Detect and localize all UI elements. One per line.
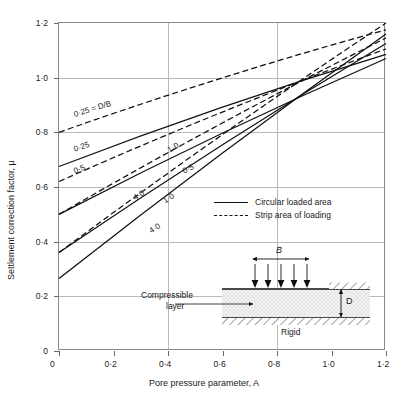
curve-circular-025 (59, 54, 386, 166)
y-axis-tick-label: 0 (43, 346, 48, 356)
figure-number-mark (2, 356, 8, 368)
legend-swatch-dashed-line (214, 211, 248, 219)
x-axis-tick (386, 351, 387, 356)
figure-settlement-correction-factor: Settlement correction factor, μ Pore pre… (0, 0, 408, 404)
x-axis-tick (59, 351, 60, 356)
curve-strip-025DB (59, 30, 386, 133)
legend: Circular loaded area Strip area of loadi… (214, 195, 332, 221)
x-axis-tick (114, 351, 115, 356)
x-axis-tick-label: 1·2 (377, 359, 389, 369)
x-axis-tick-label: 0·4 (159, 359, 171, 369)
curve-circular-05 (59, 59, 386, 215)
inset-diagram: Compressible layer B D Rigid (169, 249, 384, 344)
legend-item-circular: Circular loaded area (214, 195, 332, 208)
x-axis-tick (223, 351, 224, 356)
x-axis-tick-label: 0 (50, 359, 55, 369)
y-axis-tick-label: 0·6 (36, 182, 48, 192)
y-axis-tick-label: 1·0 (36, 73, 48, 83)
x-axis-title: Pore pressure parameter, A (0, 378, 408, 388)
inset-label-layer: layer (166, 301, 184, 311)
y-axis-tick-label: 0·2 (36, 291, 48, 301)
load-arrow-head (252, 280, 259, 288)
inset-label-b: B (276, 245, 282, 255)
inset-label-rigid: Rigid (281, 327, 300, 337)
x-axis-tick (332, 351, 333, 356)
x-axis-tick-label: 0·2 (105, 359, 117, 369)
y-axis-tick-label: 0·4 (36, 237, 48, 247)
legend-label-strip: Strip area of loading (255, 210, 331, 220)
curve-strip-10 (59, 38, 386, 214)
x-axis-tick-label: 1·0 (323, 359, 335, 369)
curve-circular-40 (59, 34, 386, 279)
load-arrow-group (252, 264, 311, 288)
surface-hatch-right (329, 283, 370, 290)
load-arrow-head (265, 280, 272, 288)
legend-swatch-solid-line (214, 198, 248, 206)
rigid-base-hatch (222, 318, 370, 325)
inset-label-compressible: Compressible (141, 290, 193, 300)
x-axis-tick (277, 351, 278, 356)
x-axis-tick-label: 0·6 (214, 359, 226, 369)
inset-label-d: D (346, 296, 353, 306)
y-axis-tick-label: 0·8 (36, 127, 48, 137)
load-arrow-head (278, 280, 285, 288)
legend-item-strip: Strip area of loading (214, 208, 332, 221)
x-axis-tick (168, 351, 169, 356)
y-axis-title: Settlement correction factor, μ (6, 266, 16, 280)
plot-area: 00·20·40·60·81·01·200·20·40·60·81·01·2 0… (58, 22, 385, 350)
x-axis-tick-label: 0·8 (268, 359, 280, 369)
load-arrow-head (291, 280, 298, 288)
y-axis-tick-label: 1·2 (36, 18, 48, 28)
legend-label-circular: Circular loaded area (255, 197, 332, 207)
load-arrow-head (304, 280, 311, 288)
